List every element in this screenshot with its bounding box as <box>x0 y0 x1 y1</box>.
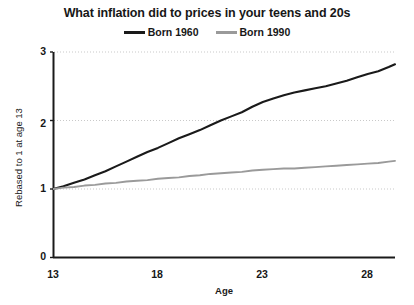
series-line-born-1990 <box>53 161 395 189</box>
y-tick-label-0: 0 <box>24 250 46 262</box>
plot-area <box>0 0 414 305</box>
x-tick-label-23: 23 <box>247 268 277 280</box>
x-axis-title: Age <box>53 285 395 296</box>
chart-figure: What inflation did to prices in your tee… <box>0 0 414 305</box>
x-tick-label-13: 13 <box>38 268 68 280</box>
series-line-born-1960 <box>53 64 395 189</box>
y-tick-label-1: 1 <box>24 182 46 194</box>
y-tick-label-3: 3 <box>24 45 46 57</box>
x-tick-label-18: 18 <box>142 268 172 280</box>
x-tick-label-28: 28 <box>352 268 382 280</box>
y-tick-label-2: 2 <box>24 117 46 129</box>
gridlines <box>54 52 395 189</box>
y-axis-title: Rebased to 1 at age 13 <box>13 78 24 238</box>
